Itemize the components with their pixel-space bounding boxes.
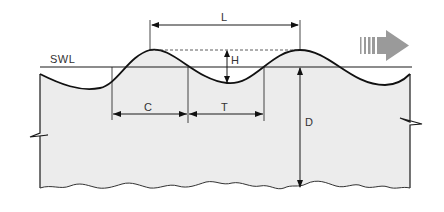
trough-width-label: T — [221, 101, 228, 113]
water-body — [40, 50, 410, 189]
wavelength-label: L — [221, 11, 228, 23]
depth-label: D — [305, 116, 313, 128]
crest-width-label: C — [144, 101, 152, 113]
arrowhead-up-icon — [224, 50, 230, 57]
arrowhead-right-icon — [291, 22, 299, 28]
wave-height-label: H — [231, 54, 239, 66]
wave-direction-arrow-icon — [360, 30, 409, 61]
arrowhead-left-icon — [151, 22, 159, 28]
swl-label: SWL — [50, 53, 75, 65]
wave-diagram: SWL L H C T D — [0, 0, 444, 212]
